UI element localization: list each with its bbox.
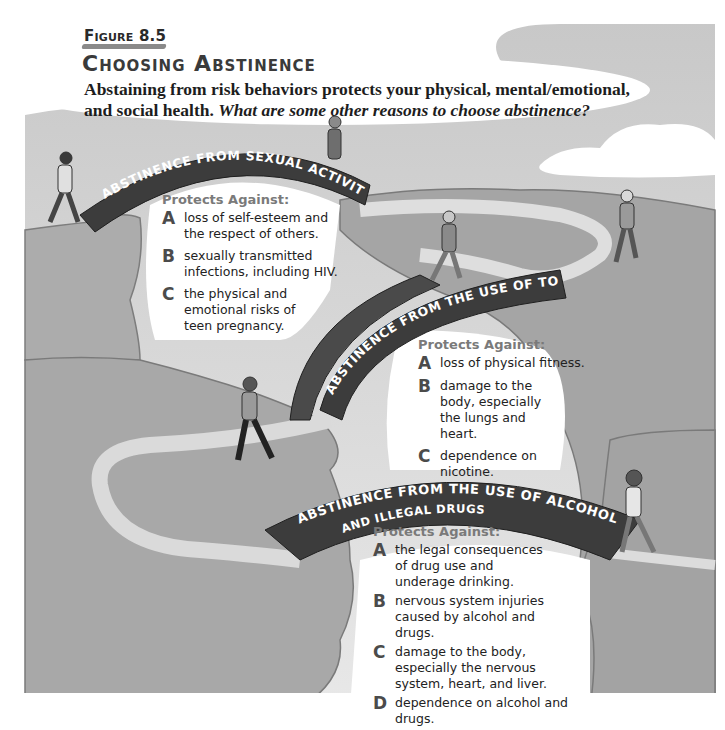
item-letter: A: [162, 210, 184, 242]
protects-header: Protects Against:: [162, 192, 342, 207]
item-text: loss of physical fitness.: [440, 355, 588, 372]
item-letter: B: [418, 378, 440, 442]
item-text: dependence on alcohol and drugs.: [395, 695, 583, 727]
list-item: Aloss of self-esteem and the respect of …: [162, 210, 342, 242]
protects-header: Protects Against:: [373, 524, 583, 539]
item-letter: A: [373, 542, 395, 590]
protects-header: Protects Against:: [418, 337, 588, 352]
item-text: damage to the body, especially the nervo…: [395, 644, 575, 692]
figure-label-underline: [81, 44, 166, 49]
list-item: Bdamage to the body, especially the lung…: [418, 378, 588, 442]
item-text: nervous system injuries caused by alcoho…: [395, 593, 565, 641]
cliff-upper-left: [25, 215, 141, 360]
caption-question: What are some other reasons to choose ab…: [218, 100, 590, 120]
item-letter: A: [418, 355, 440, 372]
item-text: sexually transmitted infections, includi…: [184, 248, 342, 280]
item-text: loss of self-esteem and the respect of o…: [184, 210, 342, 242]
figure-caption: Abstaining from risk behaviors protects …: [84, 79, 644, 121]
figure-title: Choosing Abstinence: [82, 51, 316, 76]
list-item: Bnervous system injuries caused by alcoh…: [373, 593, 583, 641]
item-letter: B: [373, 593, 395, 641]
item-letter: D: [373, 695, 395, 727]
list-item: Ddependence on alcohol and drugs.: [373, 695, 583, 727]
item-text: the physical and emotional risks of teen…: [184, 286, 304, 334]
protects-list-sexual-activity: Protects Against: Aloss of self-esteem a…: [162, 192, 342, 340]
list-item: Aloss of physical fitness.: [418, 355, 588, 372]
person-walking-top-center: [328, 116, 341, 159]
item-text: the legal consequences of drug use and u…: [395, 542, 545, 590]
item-letter: C: [418, 448, 440, 480]
figure-label: Figure 8.5: [84, 27, 166, 45]
list-item: Cthe physical and emotional risks of tee…: [162, 286, 342, 334]
item-text: dependence on nicotine.: [440, 448, 588, 480]
item-text: damage to the body, especially the lungs…: [440, 378, 565, 442]
protects-list-tobacco: Protects Against: Aloss of physical fitn…: [418, 337, 588, 486]
list-item: Cdamage to the body, especially the nerv…: [373, 644, 583, 692]
list-item: Bsexually transmitted infections, includ…: [162, 248, 342, 280]
protects-list-alcohol-drugs: Protects Against: Athe legal consequence…: [373, 524, 583, 730]
item-letter: C: [162, 286, 184, 334]
list-item: Cdependence on nicotine.: [418, 448, 588, 480]
list-item: Athe legal consequences of drug use and …: [373, 542, 583, 590]
item-letter: C: [373, 644, 395, 692]
item-letter: B: [162, 248, 184, 280]
